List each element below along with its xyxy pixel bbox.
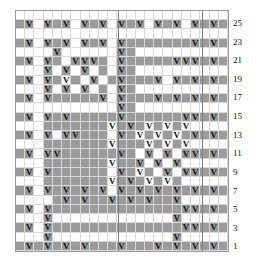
- chart-cell: V: [210, 113, 219, 122]
- chart-cell: V: [154, 20, 163, 29]
- stitch-symbol-v: V: [127, 196, 134, 204]
- stitch-symbol-v: V: [137, 168, 144, 176]
- chart-cell: V: [25, 94, 34, 103]
- chart-cell: V: [53, 149, 62, 158]
- chart-cell: [71, 29, 80, 38]
- chart-cell: [210, 29, 219, 38]
- chart-cell: [62, 48, 71, 57]
- chart-cell: [53, 113, 62, 122]
- chart-cell: V: [81, 85, 90, 94]
- chart-cell: V: [81, 196, 90, 205]
- chart-cell: [219, 103, 228, 112]
- stitch-symbol-v: V: [26, 223, 33, 231]
- chart-cell: V: [173, 159, 182, 168]
- chart-cell: [163, 159, 172, 168]
- stitch-symbol-v: V: [192, 113, 199, 121]
- chart-cell: [200, 76, 209, 85]
- chart-cell: [81, 223, 90, 232]
- stitch-symbol-v: V: [81, 85, 88, 93]
- stitch-symbol-v: V: [81, 57, 88, 65]
- chart-cell: [219, 76, 228, 85]
- chart-cell: [90, 223, 99, 232]
- chart-cell: [127, 85, 136, 94]
- stitch-symbol-v: V: [118, 103, 125, 111]
- chart-cell: V: [81, 57, 90, 66]
- chart-grid-container: VVVVVVVVVVVVVVVVVVVVVVVVVVVVVVVVVVVVVVVV…: [15, 10, 229, 252]
- chart-cell: V: [173, 94, 182, 103]
- chart-cell: V: [44, 20, 53, 29]
- chart-cell: [191, 29, 200, 38]
- chart-cell: V: [99, 186, 108, 195]
- chart-cell: [154, 177, 163, 186]
- chart-cell: [62, 159, 71, 168]
- chart-cell: [210, 66, 219, 75]
- chart-cell: [34, 196, 43, 205]
- chart-cell: [127, 103, 136, 112]
- chart-cell: V: [99, 39, 108, 48]
- chart-cell: [53, 186, 62, 195]
- chart-cell: [90, 29, 99, 38]
- chart-cell: [145, 66, 154, 75]
- stitch-symbol-v: V: [72, 131, 79, 139]
- stitch-symbol-v: V: [210, 57, 217, 65]
- chart-cell: [200, 140, 209, 149]
- stitch-symbol-v: V: [146, 149, 153, 157]
- chart-cell: [62, 94, 71, 103]
- chart-cell: [71, 159, 80, 168]
- chart-cell: [44, 177, 53, 186]
- chart-cell: V: [25, 131, 34, 140]
- stitch-symbol-v: V: [155, 76, 162, 84]
- stitch-symbol-v: V: [26, 168, 33, 176]
- chart-cell: [182, 20, 191, 29]
- chart-cell: V: [44, 223, 53, 232]
- chart-cell: [44, 48, 53, 57]
- chart-cell: [127, 94, 136, 103]
- chart-cell: [154, 48, 163, 57]
- chart-cell: [154, 57, 163, 66]
- chart-cell: [62, 11, 71, 20]
- chart-cell: [16, 103, 25, 112]
- chart-cell: V: [25, 205, 34, 214]
- chart-cell: [71, 122, 80, 131]
- stitch-symbol-v: V: [210, 131, 217, 139]
- chart-cell: [145, 20, 154, 29]
- chart-cell: [127, 168, 136, 177]
- chart-cell: [191, 11, 200, 20]
- stitch-symbol-v: V: [118, 39, 125, 47]
- stitch-symbol-v: V: [137, 20, 144, 28]
- chart-cell: [200, 196, 209, 205]
- chart-cell: V: [25, 57, 34, 66]
- stitch-symbol-v: V: [63, 113, 70, 121]
- chart-cell: [71, 177, 80, 186]
- chart-cell: [34, 140, 43, 149]
- chart-cell: V: [117, 39, 126, 48]
- stitch-symbol-v: V: [63, 76, 70, 84]
- chart-cell: V: [173, 214, 182, 223]
- chart-cell: [62, 233, 71, 242]
- chart-cell: V: [62, 66, 71, 75]
- chart-cell: V: [182, 168, 191, 177]
- chart-cell: [90, 233, 99, 242]
- stitch-symbol-v: V: [100, 20, 107, 28]
- chart-cell: [173, 113, 182, 122]
- stitch-symbol-v: V: [63, 186, 70, 194]
- chart-cell: V: [99, 94, 108, 103]
- chart-cell: V: [81, 20, 90, 29]
- stitch-symbol-v: V: [45, 85, 52, 93]
- chart-cell: [34, 113, 43, 122]
- chart-cell: [163, 29, 172, 38]
- chart-cell: [200, 113, 209, 122]
- chart-cell: [127, 223, 136, 232]
- chart-cell: [16, 214, 25, 223]
- chart-cell: [145, 103, 154, 112]
- stitch-symbol-v: V: [164, 177, 171, 185]
- chart-cell: [16, 85, 25, 94]
- chart-cell: [81, 168, 90, 177]
- chart-cell: [16, 242, 25, 251]
- chart-cell: [191, 233, 200, 242]
- stitch-symbol-v: V: [26, 113, 33, 121]
- chart-cell: [34, 20, 43, 29]
- row-number-label: 11: [233, 149, 242, 158]
- chart-cell: [191, 177, 200, 186]
- chart-cell: V: [117, 66, 126, 75]
